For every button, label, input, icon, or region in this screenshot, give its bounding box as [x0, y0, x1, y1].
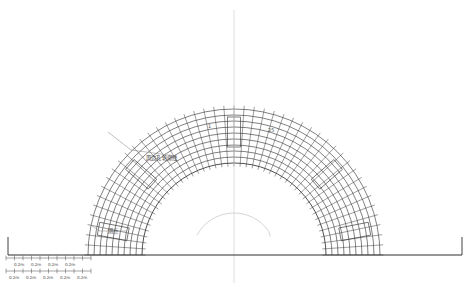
sequence-end-label: 25: [268, 128, 274, 133]
radial-blast-hole-line: [258, 111, 274, 170]
sequence-start-label: 1: [208, 124, 211, 129]
peripheral-hole-leader-line: [108, 132, 176, 156]
dimension-label-lower: 0.2m: [9, 276, 19, 280]
radial-blast-hole-line: [101, 186, 155, 214]
peripheral-hole-contour-label: 周边孔轮廓线: [146, 156, 177, 161]
dimension-label-upper: 0.2m: [48, 263, 58, 267]
dimension-label-upper: 0.2m: [31, 263, 41, 267]
sequence-arrow-tail: [269, 232, 271, 237]
sequence-arc-group: [197, 213, 270, 237]
sequence-indicator-arc: [197, 213, 269, 235]
radial-blast-hole-line: [165, 122, 193, 176]
measuring-point-label: 测点: [108, 229, 118, 234]
dimension-label-lower: 0.2m: [77, 276, 87, 280]
dimension-label-lower: 0.2m: [60, 276, 70, 280]
radial-blast-hole-line: [204, 109, 216, 169]
dimension-label-lower: 0.2m: [43, 276, 53, 280]
radial-blast-hole-line: [194, 111, 210, 170]
leader-line-group: [92, 132, 176, 231]
dimension-label-upper: 0.2m: [65, 263, 75, 267]
drawing-canvas: 周边孔轮廓线 测点 1 25 0.2m0.2m0.2m0.2m0.2m0.2m0…: [0, 0, 469, 287]
baseline-and-centerline-group: [8, 10, 462, 283]
radial-blast-hole-line: [252, 109, 264, 169]
upper-left-marker: [126, 160, 157, 189]
dimension-label-upper: 0.2m: [14, 263, 24, 267]
dimension-label-lower: 0.2m: [26, 276, 36, 280]
radial-blast-hole-line: [275, 122, 303, 176]
upper-right-marker: [311, 160, 342, 189]
radial-blast-hole-line: [321, 225, 381, 237]
radial-blast-hole-line: [313, 186, 367, 214]
tunnel-section-svg: [0, 0, 469, 287]
